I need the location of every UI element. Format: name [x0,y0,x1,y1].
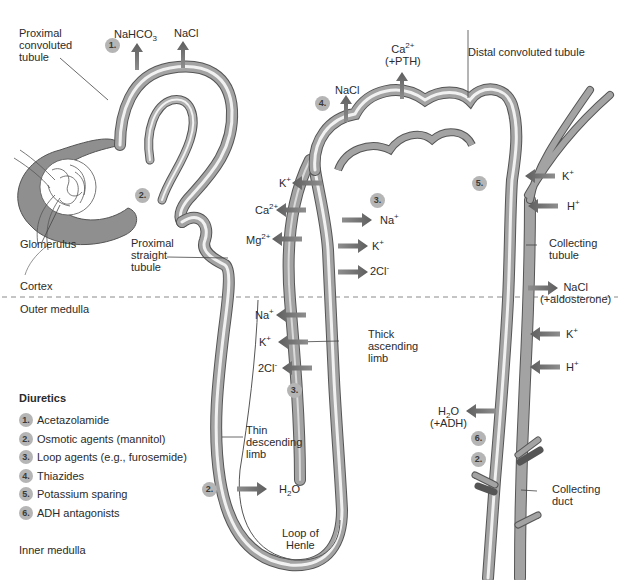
transport-ct-h: H+ [567,200,580,212]
transport-tal-na-med: Na+ [255,309,274,321]
transport-cd-h: H+ [566,361,579,373]
legend-title: Diuretics [19,392,187,404]
legend-item: 6.ADH antagonists [19,504,187,523]
legend-badge: 1. [19,413,33,427]
legend-badge: 6. [19,506,33,520]
transport-cd-h2o: H2O(+ADH) [430,405,467,429]
site-badge-dct: 4. [315,96,330,111]
transport-tal-k-out: K+ [279,177,291,189]
legend-label: Loop agents (e.g., furosemide) [37,451,187,463]
site-badge-tdl: 2. [202,482,217,497]
site-badge-tal-cortex: 3. [370,193,385,208]
legend-label: Osmotic agents (mannitol) [37,433,165,445]
site-badge-cd-osm: 2. [471,452,486,467]
zone-cortex: Cortex [20,280,52,292]
legend-item: 4.Thiazides [19,467,187,486]
zone-outer-medulla: Outer medulla [20,303,89,315]
site-badge-tal-medulla: 3. [287,383,302,398]
arrow-tal-cl-in [338,265,368,279]
label-thin-descending: Thindescendinglimb [246,424,302,460]
label-loop-of-henle: Loop ofHenle [282,527,319,551]
legend-label: ADH antagonists [37,507,120,519]
transport-tal-cl-in: 2Cl- [370,265,389,277]
transport-ct-nacl: NaCl(+aldosterone) [540,281,611,305]
transport-tal-ca: Ca2+ [255,204,278,216]
arrow-cd-h2o [466,404,496,418]
legend-label: Thiazides [37,470,84,482]
label-collecting-duct: Collectingduct [552,483,600,507]
legend-badge: 2. [19,432,33,446]
transport-tal-mg: Mg2+ [246,234,270,246]
transport-tal-cl-med: 2Cl- [258,362,277,374]
label-distal-convoluted: Distal convoluted tubule [468,46,585,58]
arrow-pct-nahco3 [131,43,143,70]
legend-item: 3.Loop agents (e.g., furosemide) [19,448,187,467]
zone-inner-medulla: Inner medulla [19,544,86,556]
legend-item: 1.Acetazolamide [19,411,187,430]
legend-badge: 4. [19,469,33,483]
nephron-diagram: Proximalconvolutedtubule Glomerulus Prox… [0,0,618,580]
transport-ct-k: K+ [562,170,574,182]
transport-tal-k-in: K+ [372,240,384,252]
transport-tdl-h2o: H2O [279,483,300,495]
legend-badge: 3. [19,450,33,464]
legend-label: Potassium sparing [37,488,128,500]
transport-dct-nacl: NaCl [335,84,359,96]
arrow-cd-h [530,360,560,374]
arrow-tdl-h2o [237,482,267,496]
diuretics-legend: Diuretics 1.Acetazolamide 2.Osmotic agen… [19,392,187,522]
legend-item: 2.Osmotic agents (mannitol) [19,430,187,449]
arrow-tal-k-in [338,239,368,253]
label-glomerulus: Glomerulus [20,238,76,250]
legend-item: 5.Potassium sparing [19,485,187,504]
label-thick-ascending: Thickascendinglimb [368,328,418,364]
site-badge-cd-adh: 6. [471,431,486,446]
transport-pct-nacl: NaCl [174,27,198,39]
transport-dct-ca: Ca2+(+PTH) [385,43,421,67]
arrow-tal-na-in [342,213,372,227]
site-badge-collecting: 5. [472,176,487,191]
label-collecting-tubule: Collectingtubule [549,237,597,261]
site-badge-pst: 2. [135,188,150,203]
transport-tal-na-in: Na+ [380,214,399,226]
site-badge-pct: 1. [105,38,120,53]
transport-cd-k: K+ [566,328,578,340]
arrow-cd-k [530,327,560,341]
label-proximal-convoluted: Proximalconvolutedtubule [19,27,72,63]
label-proximal-straight: Proximalstraighttubule [131,237,174,273]
legend-label: Acetazolamide [37,414,109,426]
legend-badge: 5. [19,487,33,501]
transport-tal-k-med: K+ [259,336,271,348]
transport-pct-nahco3: NaHCO3 [114,28,157,40]
